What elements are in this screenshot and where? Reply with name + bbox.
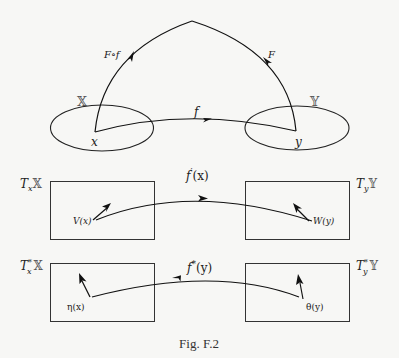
map-F-arrow bbox=[192, 21, 296, 131]
covector-eta-line bbox=[82, 281, 90, 297]
figure-f2: 𝕏 𝕐 x y f F∘f F Tx𝕏 bbox=[0, 0, 399, 358]
map-composite-arrow bbox=[95, 21, 192, 132]
diagram-svg: 𝕏 𝕐 x y f F∘f F Tx𝕏 bbox=[0, 0, 399, 358]
point-y-label: y bbox=[294, 135, 302, 149]
map-F-label: F bbox=[267, 49, 276, 60]
top-diagram: 𝕏 𝕐 x y f F∘f F bbox=[51, 21, 350, 151]
map-composite-label: F∘f bbox=[103, 49, 122, 60]
tangent-row: Tx𝕏 Ty𝕐 f′(x) V(x) W(y) bbox=[20, 167, 378, 240]
point-x-label: x bbox=[91, 135, 98, 149]
covector-eta-label: η(x) bbox=[67, 302, 85, 312]
cotangent-space-y-label: T*y𝕐 bbox=[356, 258, 379, 276]
arrowhead-f-icon bbox=[203, 118, 212, 122]
tangent-space-x-label: Tx𝕏 bbox=[20, 177, 43, 193]
tangent-map-arrow bbox=[96, 201, 312, 221]
vector-w-arrowhead-icon bbox=[293, 203, 302, 213]
arrowhead-tangent-map-icon bbox=[198, 195, 208, 202]
tangent-space-x-box bbox=[51, 182, 155, 240]
covector-theta-label: θ(y) bbox=[306, 302, 324, 312]
cotangent-space-x-box bbox=[51, 264, 155, 322]
tangent-space-y-label: Ty𝕐 bbox=[356, 177, 378, 193]
set-x-ellipse bbox=[51, 105, 154, 151]
vector-v-label: V(x) bbox=[73, 216, 92, 226]
tangent-space-y-box bbox=[246, 182, 350, 240]
map-f-label: f bbox=[193, 105, 201, 119]
tangent-map-label: f′(x) bbox=[185, 167, 209, 183]
map-f-arrow bbox=[95, 119, 296, 132]
set-y-label: 𝕐 bbox=[309, 94, 320, 109]
vector-w-line bbox=[297, 209, 309, 221]
cotangent-space-y-box bbox=[246, 264, 350, 322]
covector-theta-line bbox=[300, 283, 303, 299]
arrowhead-cotangent-map-icon bbox=[172, 275, 181, 281]
cotangent-space-x-label: T*x𝕏 bbox=[20, 258, 44, 276]
cotangent-row: T*x𝕏 T*y𝕐 f*(y) η(x) θ(y) bbox=[20, 258, 379, 322]
figure-caption: Fig. F.2 bbox=[179, 336, 219, 351]
cotangent-map-label: f*(y) bbox=[186, 259, 212, 275]
vector-w-label: W(y) bbox=[313, 216, 335, 226]
arrowhead-composite-icon bbox=[127, 51, 134, 62]
cotangent-map-arrow bbox=[92, 281, 299, 297]
set-x-label: 𝕏 bbox=[77, 94, 88, 109]
